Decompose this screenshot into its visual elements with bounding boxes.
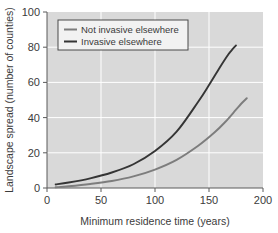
x-tick-label: 150: [200, 194, 218, 206]
chart-figure: 050100150200 020406080100 Minimum reside…: [0, 0, 278, 233]
x-tick-label: 200: [254, 194, 272, 206]
chart-legend: Not invasive elsewhere Invasive elsewher…: [58, 20, 188, 50]
y-tick-label: 40: [28, 112, 40, 124]
y-tick-label: 100: [22, 6, 40, 18]
x-tick-label: 100: [146, 194, 164, 206]
chart-canvas: 050100150200 020406080100 Minimum reside…: [0, 0, 278, 233]
y-tick-label: 60: [28, 76, 40, 88]
y-axis-title: Landscape spread (number of counties): [3, 7, 15, 193]
y-tick-label: 0: [34, 182, 40, 194]
y-tick-label: 20: [28, 147, 40, 159]
x-tick-label: 0: [44, 194, 50, 206]
y-tick-label: 80: [28, 41, 40, 53]
legend-label-not-invasive-elsewhere: Not invasive elsewhere: [81, 24, 179, 35]
x-tick-label: 50: [95, 194, 107, 206]
x-axis-title: Minimum residence time (years): [80, 215, 229, 227]
legend-label-invasive-elsewhere: Invasive elsewhere: [81, 36, 162, 47]
